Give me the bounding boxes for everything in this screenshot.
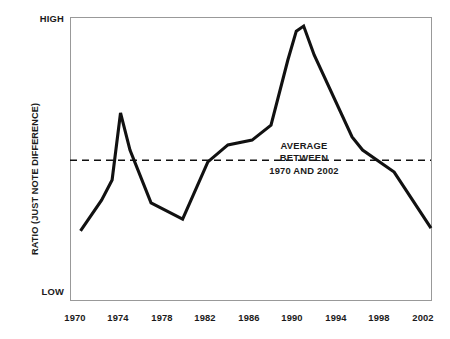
- plot-area: [0, 0, 450, 339]
- chart-figure: RATIO (JUST NOTE DIFFERENCE) HIGH LOW 19…: [0, 0, 450, 339]
- average-annotation: AVERAGE BETWEEN 1970 AND 2002: [246, 140, 362, 177]
- annotation-line-3: 1970 AND 2002: [246, 165, 362, 177]
- annotation-line-1: AVERAGE: [246, 140, 362, 152]
- data-series-line: [81, 26, 431, 231]
- annotation-line-2: BETWEEN: [246, 152, 362, 164]
